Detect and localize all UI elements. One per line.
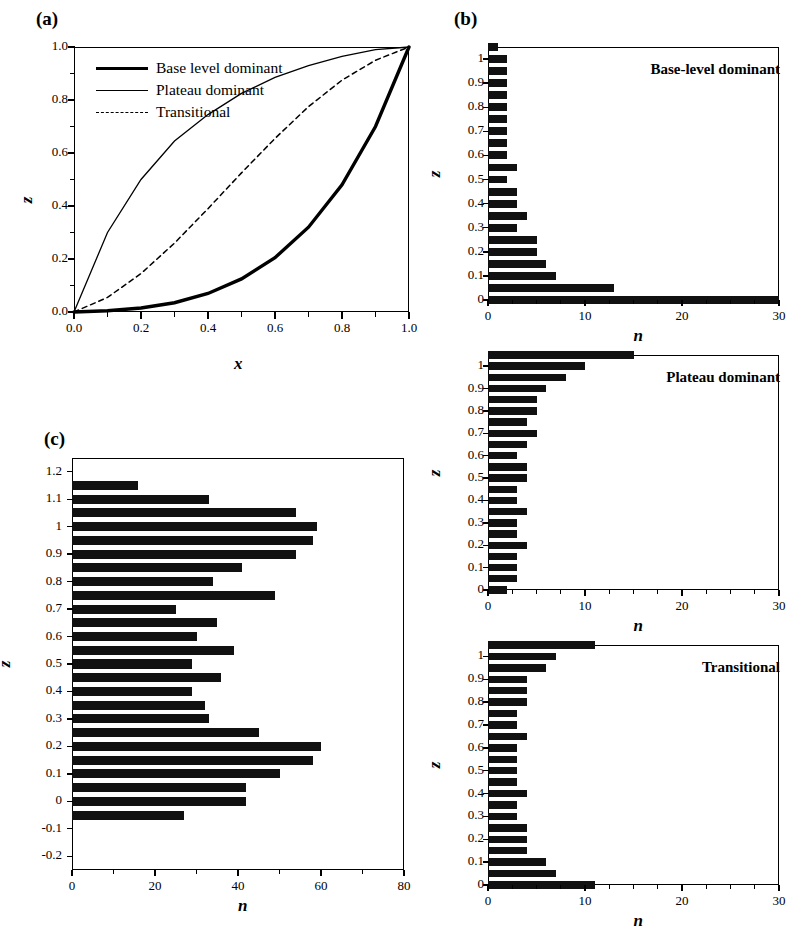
b-bot-xtick: 10 [565, 893, 605, 909]
b-bot-xtick-minor [609, 885, 610, 889]
c-host-xtick: 20 [135, 878, 175, 894]
b-mid-xtick-minor [536, 590, 537, 594]
bar [488, 55, 507, 63]
bar [488, 756, 517, 764]
b-mid-xtick-minor [730, 590, 731, 594]
panel-c: (c) 1.21.110.90.80.70.60.50.40.30.20.10-… [0, 420, 440, 949]
c-host-ytick-mark [67, 746, 73, 747]
b-top-ytick: 0.9 [452, 74, 484, 90]
c-host-xtick: 80 [384, 878, 424, 894]
bar [488, 553, 517, 560]
b-bot-ytick: 0.4 [452, 785, 484, 801]
b-top-xtick-mark [778, 300, 779, 306]
c-host-xtick-mark [71, 870, 72, 876]
bar [488, 164, 517, 172]
b-top-xtick-minor [657, 300, 658, 304]
b-top-xlabel: n [634, 326, 643, 346]
bar [72, 618, 217, 627]
bar [488, 508, 527, 515]
b-top-xtick-mark [487, 300, 488, 306]
b-mid-ytick-mark [483, 388, 489, 389]
c-host-ytick: -0.1 [30, 820, 62, 836]
b-top-ytick: 0 [452, 291, 484, 307]
c-host-ytick-mark [67, 718, 73, 719]
c-host-ytick: 1 [30, 518, 62, 534]
panel-a-xtick: 0.4 [188, 320, 228, 336]
panel-a-xtick-minor [107, 312, 108, 317]
b-mid-xtick: 20 [662, 598, 702, 614]
bar [488, 176, 507, 184]
b-bot-ytick-mark [483, 793, 489, 794]
bar [488, 103, 507, 111]
c-host-ytick-mark [67, 856, 73, 857]
panel-a-xtick-mark [274, 312, 275, 319]
panel-a-ytick: 0.4 [34, 197, 68, 213]
b-bot-xtick-minor [730, 885, 731, 889]
bar [488, 698, 527, 706]
c-host-xtick-minor [196, 870, 197, 874]
bar [488, 396, 537, 403]
b-top-ytick-mark [483, 58, 489, 59]
b-top-xtick: 30 [759, 308, 799, 324]
b-mid-ytick: 0.2 [452, 536, 484, 552]
b-bot-ytick: 1 [452, 647, 484, 663]
legend-item-plateau-dominant: Plateau dominant [96, 81, 264, 99]
c-host-ytick: 0.5 [30, 655, 62, 671]
b-top-xtick: 0 [468, 308, 508, 324]
panel-a-ytick-mark [68, 99, 75, 100]
bar [72, 481, 138, 490]
panel-a-ytick-mark [68, 152, 75, 153]
bar [72, 563, 242, 572]
panel-a-xtick: 0.2 [121, 320, 161, 336]
bar [488, 836, 527, 844]
c-host-ytick-mark [67, 499, 73, 500]
b-mid-ytick-mark [483, 522, 489, 523]
b-top-xtick-minor [730, 300, 731, 304]
panel-b: (b) 00.10.20.30.40.50.60.70.80.910102030… [440, 0, 802, 949]
b-top-ytick-mark [483, 155, 489, 156]
bar [488, 564, 517, 571]
b-mid-xtick-minor [754, 590, 755, 594]
b-bot-xtick-minor [706, 885, 707, 889]
b-mid-ytick-mark [483, 500, 489, 501]
c-host-ytick: 1.1 [30, 490, 62, 506]
panel-a-ytick-mark [68, 258, 75, 259]
bar [72, 577, 213, 586]
b-mid-ytick: 1 [452, 357, 484, 373]
panel-a-ytick-minor [70, 285, 75, 286]
c-host-ytick-mark [67, 773, 73, 774]
bar [488, 870, 556, 878]
bar [488, 586, 507, 593]
panel-b-label: (b) [454, 8, 477, 30]
panel-a-ytick-minor [70, 232, 75, 233]
legend-swatch-icon [96, 67, 148, 70]
bar [488, 139, 507, 147]
panel-a-xtick-mark [207, 312, 208, 319]
bar [488, 721, 517, 729]
bar [488, 115, 507, 123]
b-bot-xtick-minor [633, 885, 634, 889]
b-bot-ytick: 0.9 [452, 670, 484, 686]
b-mid-xtick: 0 [468, 598, 508, 614]
legend-label: Plateau dominant [156, 81, 264, 99]
b-top-xtick-mark [584, 300, 585, 306]
bar [488, 801, 517, 809]
b-mid-ytick: 0.4 [452, 491, 484, 507]
b-mid-xtick-minor [633, 590, 634, 594]
bar [488, 452, 517, 459]
b-bot-ytick-mark [483, 679, 489, 680]
bar [488, 91, 507, 99]
b-bot-ytick: 0.6 [452, 739, 484, 755]
b-top-ytick: 0.6 [452, 146, 484, 162]
b-top-ytick-mark [483, 82, 489, 83]
b-bot-xtick: 20 [662, 893, 702, 909]
bar [488, 542, 527, 549]
b-mid-xtick-minor [657, 590, 658, 594]
b-mid-xtick-minor [512, 590, 513, 594]
b-bot-xtick: 0 [468, 893, 508, 909]
b-bot-ytick-mark [483, 747, 489, 748]
bar [72, 550, 296, 559]
panel-a-xtick-mark [140, 312, 141, 319]
b-bot-xtick-minor [657, 885, 658, 889]
c-host-ytick-mark [67, 526, 73, 527]
